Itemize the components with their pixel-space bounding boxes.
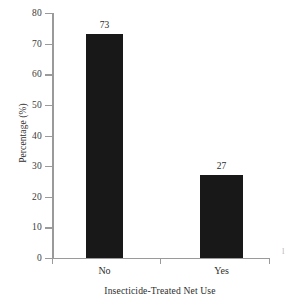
bar-yes <box>200 175 243 258</box>
y-tick-label: 70 <box>2 40 42 50</box>
y-tick-mark <box>45 74 52 75</box>
y-axis-title: Percentage (%) <box>18 63 28 203</box>
x-tick-mark <box>52 258 53 264</box>
x-axis-title: Insecticide-Treated Net Use <box>30 285 290 296</box>
x-tick-mark <box>160 258 161 264</box>
bar-chart-figure: 80 70 60 50 40 30 20 10 0 73 No 27 Yes P… <box>0 0 290 306</box>
y-tick-label: 80 <box>2 9 42 19</box>
page-edge-text-fragment: l <box>282 246 290 257</box>
y-tick-label: 10 <box>2 223 42 233</box>
y-tick-mark <box>45 166 52 167</box>
y-tick-mark <box>45 227 52 228</box>
x-tick-label-yes: Yes <box>192 266 252 276</box>
y-tick-mark <box>45 44 52 45</box>
bar-no <box>86 34 123 258</box>
bar-value-yes: 27 <box>192 162 252 172</box>
x-tick-mark <box>269 258 270 264</box>
y-tick-mark <box>45 197 52 198</box>
y-tick-mark <box>45 136 52 137</box>
y-tick-label: 0 <box>2 254 42 264</box>
x-tick-label-no: No <box>75 266 135 276</box>
bar-value-no: 73 <box>75 21 135 31</box>
y-tick-mark <box>45 258 52 259</box>
y-tick-mark <box>45 13 52 14</box>
y-tick-mark <box>45 105 52 106</box>
y-axis-line <box>52 13 54 259</box>
